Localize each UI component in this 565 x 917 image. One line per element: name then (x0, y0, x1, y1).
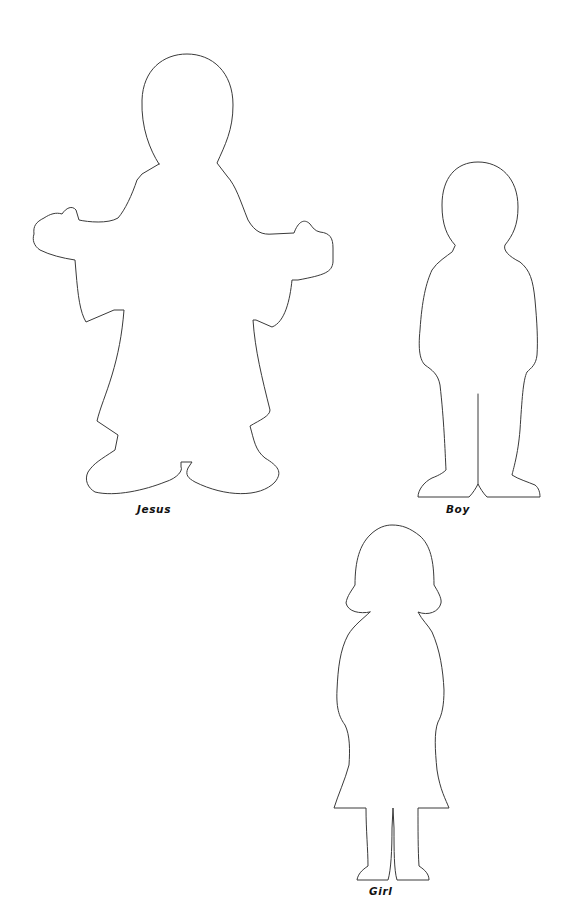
girl-outline-icon (0, 0, 565, 917)
girl-figure: Girl (0, 0, 565, 917)
girl-label: Girl (369, 885, 392, 897)
